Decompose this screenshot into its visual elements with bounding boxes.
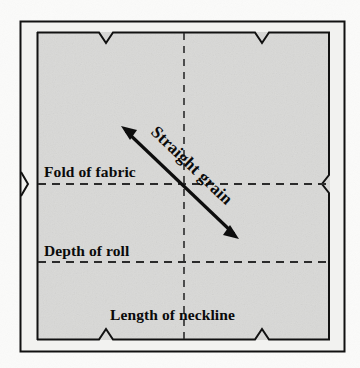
label-fold-of-fabric: Fold of fabric bbox=[44, 163, 136, 180]
label-depth-of-roll: Depth of roll bbox=[44, 242, 130, 259]
pattern-diagram-figure: Fold of fabric Depth of roll Length of n… bbox=[0, 0, 360, 368]
pattern-diagram-svg: Fold of fabric Depth of roll Length of n… bbox=[0, 0, 360, 368]
label-length-of-neckline: Length of neckline bbox=[110, 306, 235, 323]
